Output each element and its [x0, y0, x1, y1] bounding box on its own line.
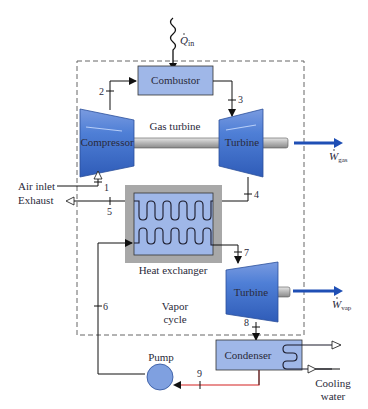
cooling-water-label-2: water	[321, 390, 346, 402]
exhaust-arrowhead	[66, 197, 74, 205]
cooling-in-arrowhead	[308, 365, 316, 373]
heat-input-squiggle	[171, 18, 176, 64]
gas-turbine-label: Turbine	[225, 136, 260, 148]
work-vap-label: Wvap	[332, 298, 352, 312]
stream-2-line	[110, 81, 136, 110]
cooling-out-arrowhead	[332, 341, 341, 349]
state-1-label: 1	[104, 182, 109, 193]
state-4-label: 4	[254, 189, 259, 200]
state-7-label: 7	[244, 247, 249, 258]
state-3-label: 3	[238, 94, 243, 105]
air-inlet-label: Air inlet	[18, 180, 55, 192]
stream-3-line	[213, 81, 232, 116]
pump	[147, 364, 173, 390]
gas-turbine-caption: Gas turbine	[149, 120, 200, 132]
work-gas-label: Wgas	[329, 150, 348, 164]
state-6-label: 6	[103, 301, 108, 312]
vapor-cycle-label: Vapor	[162, 300, 189, 312]
condenser-label: Condenser	[224, 349, 271, 361]
stream-9-line	[175, 370, 259, 385]
combustor-label: Combustor	[151, 74, 200, 86]
power-plant-diagram: Qin Combustor 2 3 Compressor Turbine Gas…	[0, 0, 368, 409]
vapor-cycle-label-2: cycle	[163, 313, 186, 325]
exhaust-label: Exhaust	[18, 194, 53, 206]
heat-exchanger-core	[134, 193, 213, 255]
heat-input-label: Qin	[180, 34, 194, 48]
stream-9-arrowhead	[173, 381, 181, 389]
state-2-label: 2	[99, 86, 104, 97]
cooling-water-label: Cooling	[315, 377, 351, 389]
state-9-label: 9	[197, 368, 202, 379]
state-5-label: 5	[107, 206, 112, 217]
heat-exchanger-label: Heat exchanger	[139, 264, 208, 276]
pump-label: Pump	[148, 351, 174, 363]
compressor-label: Compressor	[80, 136, 134, 148]
state-8-label: 8	[244, 317, 249, 328]
vapor-turbine-label: Turbine	[234, 286, 269, 298]
gas-turbine-shaft	[130, 138, 288, 148]
